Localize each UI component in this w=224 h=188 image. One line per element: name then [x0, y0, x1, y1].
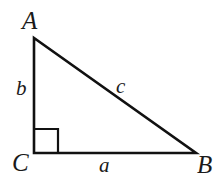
side-label-a: a — [99, 155, 110, 176]
vertex-label-b: B — [197, 152, 212, 177]
vertex-label-c: C — [12, 150, 29, 175]
right-triangle-figure: A B C a b c — [0, 0, 224, 188]
vertex-label-a: A — [22, 8, 37, 33]
right-angle-square-icon — [34, 129, 58, 153]
side-label-c: c — [116, 76, 125, 97]
side-label-b: b — [16, 78, 27, 99]
